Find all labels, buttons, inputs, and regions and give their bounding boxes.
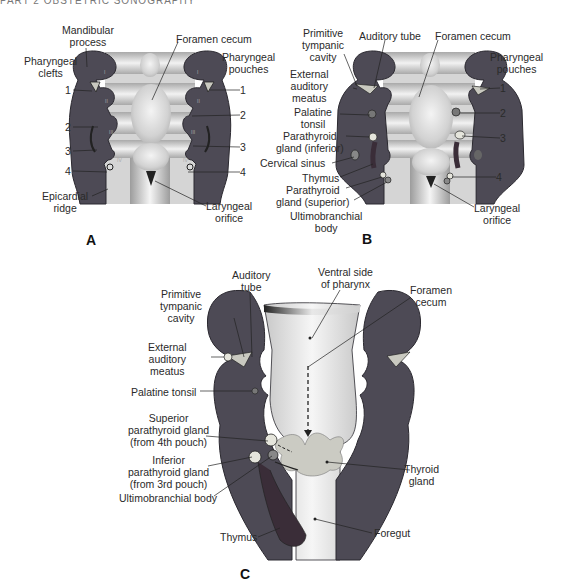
- panel-letter-b: B: [362, 231, 372, 247]
- label-laryngeal-orifice-a: Laryngeal orifice: [206, 200, 252, 224]
- label-epicardial-ridge: Epicardial ridge: [42, 190, 88, 214]
- label-pouch-2-a: 2: [240, 109, 246, 121]
- panel-letter-a: A: [86, 232, 96, 248]
- svg-text:I: I: [197, 69, 198, 75]
- svg-text:III: III: [191, 129, 195, 135]
- label-ultimobranchial-body-b: Ultimobranchial body: [290, 210, 362, 234]
- label-laryngeal-orifice-b: Laryngeal orifice: [474, 202, 520, 226]
- label-external-auditory-meatus-c: External auditory meatus: [148, 341, 187, 377]
- panel-c-drawing: [200, 290, 421, 560]
- label-ventral-side-of-pharynx: Ventral side of pharynx: [318, 266, 373, 290]
- label-superior-parathyroid: Superior parathyroid gland (from 4th pou…: [128, 412, 209, 448]
- label-foramen-cecum-c: Foramen cecum: [410, 284, 452, 308]
- label-pouch-4-b: 4: [496, 171, 502, 183]
- label-foramen-cecum-b: Foramen cecum: [435, 30, 511, 42]
- label-pouch-4-a: 4: [240, 166, 246, 178]
- label-palatine-tonsil-b: Palatine tonsil: [294, 106, 332, 130]
- svg-text:II: II: [105, 98, 108, 104]
- label-pouch-2-b: 2: [500, 107, 506, 119]
- label-thymus-b: Thymus: [302, 172, 339, 184]
- label-cleft-2: 2: [65, 121, 71, 133]
- svg-text:IV: IV: [117, 157, 122, 163]
- label-auditory-tube-b: Auditory tube: [359, 30, 421, 42]
- label-auditory-tube-c: Auditory tube: [232, 269, 271, 293]
- label-pouch-1-a: 1: [240, 84, 246, 96]
- label-parathyroid-inferior: Parathyroid gland (inferior): [276, 130, 344, 154]
- label-cervical-sinus: Cervical sinus: [260, 157, 325, 169]
- label-pharyngeal-pouches-b: Pharyngeal pouches: [490, 51, 543, 75]
- label-palatine-tonsil-c: Palatine tonsil: [131, 386, 196, 398]
- label-pharyngeal-pouches-a: Pharyngeal pouches: [222, 51, 275, 75]
- label-foramen-cecum-a: Foramen cecum: [176, 33, 252, 45]
- panel-a-drawing: I II III IV I II III IV: [69, 42, 240, 206]
- svg-text:IV: IV: [183, 157, 188, 163]
- label-ultimobranchial-body-c: Ultimobranchial body: [119, 492, 217, 504]
- label-pouch-3-b: 3: [500, 132, 506, 144]
- label-primitive-tympanic-cavity-b: Primitive tympanic cavity: [302, 27, 344, 63]
- label-cleft-4: 4: [65, 165, 71, 177]
- svg-text:I: I: [104, 69, 105, 75]
- label-parathyroid-superior: Parathyroid gland (superior): [276, 184, 350, 208]
- label-pouch-1-b: 1: [500, 82, 506, 94]
- label-mandibular-process: Mandibular process: [62, 24, 114, 48]
- label-external-auditory-meatus-b: External auditory meatus: [290, 68, 329, 104]
- label-pharyngeal-clefts: Pharyngeal clefts: [24, 55, 77, 79]
- label-primitive-tympanic-cavity-c: Primitive tympanic cavity: [160, 288, 202, 324]
- svg-text:III: III: [109, 129, 113, 135]
- label-foregut: Foregut: [374, 527, 410, 539]
- svg-text:II: II: [197, 98, 200, 104]
- label-pouch-3-a: 3: [240, 141, 246, 153]
- label-cleft-3: 3: [65, 145, 71, 157]
- label-inferior-parathyroid: Inferior parathyroid gland (from 3rd pou…: [128, 454, 209, 490]
- label-thymus-c: Thymus: [220, 531, 257, 543]
- label-cleft-1: 1: [65, 84, 71, 96]
- panel-letter-c: C: [240, 566, 250, 582]
- label-thyroid-gland: Thyroid gland: [404, 463, 439, 487]
